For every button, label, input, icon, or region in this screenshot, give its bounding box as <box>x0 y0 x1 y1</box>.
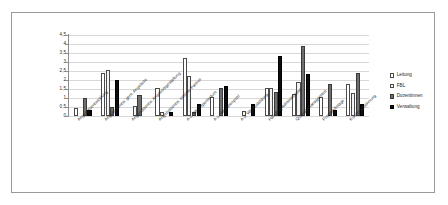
y-axis-tick-mark <box>65 116 68 117</box>
x-axis-labels: AngebotsentwicklungAngebotsentw. gem. An… <box>12 119 372 189</box>
plot-area <box>69 35 369 116</box>
y-axis-tick-label: 0,5 <box>36 105 66 110</box>
legend-label: Leitung <box>397 73 412 78</box>
y-axis-labels: 4,543,532,521,510,50 <box>33 13 66 133</box>
y-axis-tick-mark <box>65 89 68 90</box>
legend-item: FBL <box>390 84 448 89</box>
legend-swatch-icon <box>390 94 394 98</box>
y-axis-tick-label: 1 <box>36 96 66 101</box>
y-axis-tick-label: 1,5 <box>36 87 66 92</box>
bar <box>183 58 187 116</box>
legend-item: Verwaltung <box>390 105 448 110</box>
bar <box>346 84 350 116</box>
legend-label: FBL <box>397 84 405 89</box>
y-axis-tick-mark <box>65 80 68 81</box>
legend-label: Dozentinnen <box>397 94 423 99</box>
bar <box>187 76 191 116</box>
y-axis-tick-label: 4 <box>36 42 66 47</box>
legend-swatch-icon <box>390 73 394 77</box>
legend-label: Verwaltung <box>397 105 420 110</box>
y-axis-tick-mark <box>65 107 68 108</box>
y-axis-tick-label: 3,5 <box>36 51 66 56</box>
legend-item: Dozentinnen <box>390 94 448 99</box>
chart-legend: LeitungFBLDozentinnenVerwaltung <box>390 73 448 115</box>
bar <box>74 108 78 116</box>
y-axis-tick-label: 2,5 <box>36 69 66 74</box>
y-axis-tick-label: 2 <box>36 78 66 83</box>
y-axis-tick-label: 0 <box>36 114 66 119</box>
legend-swatch-icon <box>390 84 394 88</box>
y-axis-tick-mark <box>65 98 68 99</box>
legend-item: Leitung <box>390 73 448 78</box>
chart-frame: 4,543,532,521,510,50 Angebotsentwicklung… <box>11 12 435 193</box>
y-axis-tick-label: 4,5 <box>36 33 66 38</box>
y-axis-tick-label: 3 <box>36 60 66 65</box>
y-axis-tick-mark <box>65 44 68 45</box>
y-axis-tick-mark <box>65 62 68 63</box>
y-axis-tick-mark <box>65 35 68 36</box>
y-axis-tick-mark <box>65 53 68 54</box>
y-axis-tick-mark <box>65 71 68 72</box>
bar <box>301 46 305 116</box>
legend-swatch-icon <box>390 105 394 109</box>
